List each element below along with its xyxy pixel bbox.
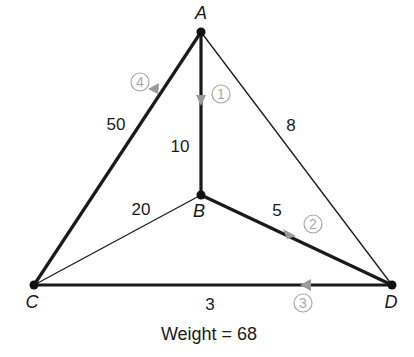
svg-text:1: 1 bbox=[217, 86, 225, 102]
node-label-D: D bbox=[385, 292, 398, 312]
svg-text:2: 2 bbox=[309, 216, 317, 232]
graph-diagram: 1 2 3 4 50 10 8 20 5 3 A B C D Weight = … bbox=[0, 0, 414, 357]
step-marker-4: 4 bbox=[131, 73, 149, 91]
node-C bbox=[30, 281, 39, 290]
node-A bbox=[197, 28, 206, 37]
edge-B-D bbox=[201, 195, 392, 285]
edge-A-C bbox=[34, 32, 201, 285]
node-D bbox=[388, 281, 397, 290]
arrow-step-4-icon bbox=[148, 83, 159, 94]
weight-label-A-C: 50 bbox=[107, 115, 126, 134]
node-label-C: C bbox=[26, 292, 40, 312]
node-label-B: B bbox=[193, 201, 205, 221]
weight-label-B-D: 5 bbox=[272, 201, 281, 220]
weight-label-A-B: 10 bbox=[171, 137, 190, 156]
svg-text:4: 4 bbox=[136, 74, 144, 90]
weight-label-C-D: 3 bbox=[205, 295, 214, 314]
weight-label-B-C: 20 bbox=[132, 200, 151, 219]
svg-text:3: 3 bbox=[299, 295, 307, 311]
step-marker-1: 1 bbox=[212, 85, 230, 103]
total-weight-caption: Weight = 68 bbox=[161, 324, 257, 344]
edge-B-C bbox=[34, 195, 201, 285]
node-label-A: A bbox=[194, 3, 207, 23]
step-marker-2: 2 bbox=[304, 215, 322, 233]
step-marker-3: 3 bbox=[294, 294, 312, 312]
edge-A-D bbox=[201, 32, 392, 285]
arrow-step-3-icon bbox=[300, 279, 311, 291]
arrow-step-1-icon bbox=[196, 95, 206, 106]
node-B bbox=[197, 191, 206, 200]
weight-label-A-D: 8 bbox=[286, 116, 295, 135]
